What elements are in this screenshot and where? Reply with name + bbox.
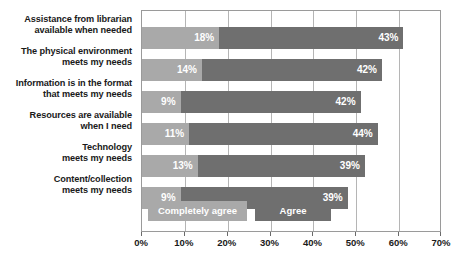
category-label-line: meets my needs (0, 57, 132, 68)
x-tick-label: 40% (292, 237, 332, 248)
category-label-line: meets my needs (0, 185, 132, 196)
x-tick-label: 20% (207, 237, 247, 248)
category-label: Assistance from librarianavailable when … (0, 14, 132, 37)
category-label-line: Technology (0, 142, 132, 153)
category-label-line: Content/collection (0, 174, 132, 185)
category-label-line: when I need (0, 121, 132, 132)
category-label: Resources are availablewhen I need (0, 110, 132, 133)
bar-row: 11%44% (142, 123, 442, 145)
bar-row: 13%39% (142, 155, 442, 177)
category-label: Technologymeets my needs (0, 142, 132, 165)
legend-item: Agree (255, 201, 331, 221)
bar-value-label: 42% (357, 59, 377, 81)
category-label-line: meets my needs (0, 153, 132, 164)
bar-value-label: 13% (173, 155, 193, 177)
x-tick-mark (184, 232, 185, 236)
bar-segment-completely-agree: 14% (142, 59, 202, 81)
x-tick-mark (398, 232, 399, 236)
x-tick-mark (440, 232, 441, 236)
bar-segment-agree: 44% (189, 123, 378, 145)
category-label: Information is in the formatthat meets m… (0, 78, 132, 101)
bar-segment-agree: 42% (202, 59, 382, 81)
bar-row: 9%42% (142, 91, 442, 113)
legend-item: Completely agree (148, 201, 247, 221)
x-tick-mark (270, 232, 271, 236)
bar-row: 14%42% (142, 59, 442, 81)
category-label-line: The physical environment (0, 46, 132, 57)
bar-value-label: 39% (340, 155, 360, 177)
category-label-line: Information is in the format (0, 78, 132, 89)
plot-area: 18%43%14%42%9%42%11%44%13%39%9%39% Compl… (141, 10, 441, 232)
bar-value-label: 11% (165, 123, 184, 145)
category-label: The physical environmentmeets my needs (0, 46, 132, 69)
category-label: Content/collectionmeets my needs (0, 174, 132, 197)
bar-segment-completely-agree: 18% (142, 27, 219, 49)
bar-value-label: 43% (378, 27, 398, 49)
bar-value-label: 42% (336, 91, 356, 113)
category-label-line: that meets my needs (0, 89, 132, 100)
bar-segment-completely-agree: 9% (142, 91, 181, 113)
x-tick-label: 0% (121, 237, 161, 248)
bar-segment-agree: 43% (219, 27, 403, 49)
bar-value-label: 18% (194, 27, 214, 49)
stacked-bar-chart: Assistance from librarianavailable when … (0, 0, 461, 262)
x-tick-mark (312, 232, 313, 236)
category-label-line: Assistance from librarian (0, 14, 132, 25)
category-axis-labels: Assistance from librarianavailable when … (0, 10, 136, 205)
x-tick-label: 70% (421, 237, 461, 248)
x-tick-label: 50% (335, 237, 375, 248)
bar-value-label: 9% (161, 91, 175, 113)
x-tick-mark (141, 232, 142, 236)
bar-segment-completely-agree: 13% (142, 155, 198, 177)
x-tick-mark (355, 232, 356, 236)
bar-segment-agree: 39% (198, 155, 365, 177)
x-tick-label: 10% (164, 237, 204, 248)
category-label-line: Resources are available (0, 110, 132, 121)
category-label-line: available when needed (0, 25, 132, 36)
bar-segment-agree: 42% (181, 91, 361, 113)
x-tick-mark (227, 232, 228, 236)
bar-value-label: 14% (177, 59, 197, 81)
bar-segment-completely-agree: 11% (142, 123, 189, 145)
x-tick-label: 30% (250, 237, 290, 248)
bar-row: 18%43% (142, 27, 442, 49)
x-tick-label: 60% (378, 237, 418, 248)
bar-value-label: 44% (353, 123, 373, 145)
x-axis: 0%10%20%30%40%50%60%70% (141, 232, 441, 262)
